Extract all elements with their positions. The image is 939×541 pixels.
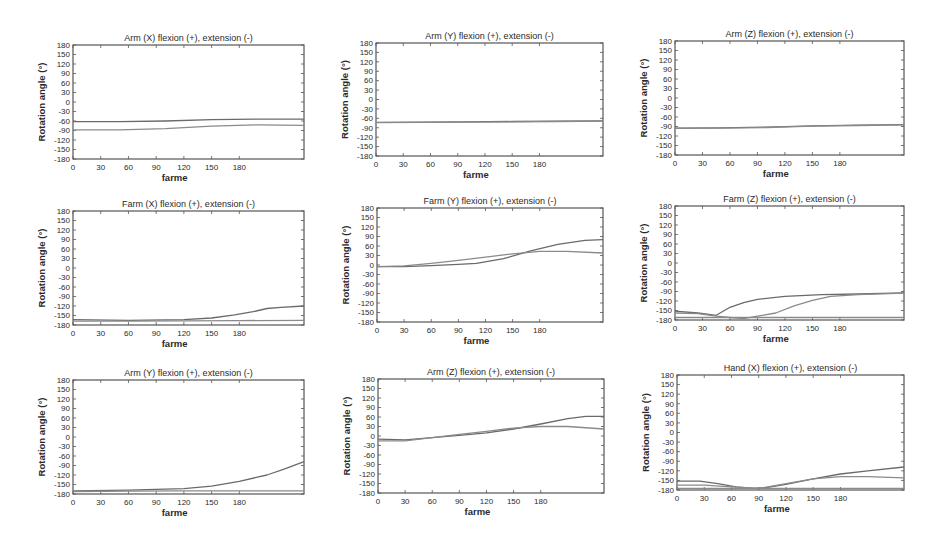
y-tick-label: -60 [662,447,674,456]
subplot-title: Arm (Y) flexion (+), extension (-) [124,368,252,378]
x-tick-label: 30 [96,163,105,172]
y-tick-label: 0 [369,95,374,104]
y-tick-label: 30 [663,249,672,258]
x-tick-label: 180 [833,324,847,333]
x-tick-label: 60 [124,498,133,507]
subplot-title: Arm (Z) flexion (+), extension (-) [427,367,555,377]
x-tick-label: 150 [506,160,520,169]
y-tick-label: -180 [54,155,71,164]
x-tick-label: 90 [753,159,762,168]
y-tick-label: -90 [662,457,674,466]
x-tick-label: 120 [779,494,793,503]
y-tick-label: 180 [361,204,375,213]
y-tick-label: -120 [54,136,71,145]
y-tick-label: 180 [659,37,673,46]
y-tick-label: 60 [366,413,375,422]
y-tick-label: 180 [659,202,673,211]
x-tick-label: 120 [478,160,492,169]
y-tick-label: -30 [361,105,373,114]
x-tick-label: 60 [726,324,735,333]
x-tick-label: 60 [727,494,736,503]
plot-area [73,45,304,159]
x-tick-label: 180 [233,163,247,172]
y-tick-label: 30 [61,88,70,97]
x-tick-label: 150 [205,498,219,507]
y-tick-label: -60 [660,278,672,287]
x-axis-label: farme [763,333,789,344]
y-tick-label: 120 [57,226,71,235]
x-tick-label: 120 [177,163,191,172]
x-tick-label: 30 [700,494,709,503]
y-axis-label: Rotation angle (°) [640,393,651,472]
x-tick-label: 0 [376,497,381,506]
y-tick-label: 90 [663,230,672,239]
subplot-title: Arm (Y) flexion (+), extension (-) [425,31,553,41]
y-tick-label: 30 [61,423,70,432]
y-axis-label: Rotation angle (°) [36,63,47,142]
y-tick-label: -150 [54,480,71,489]
y-tick-label: 90 [365,232,374,241]
x-tick-label: 0 [375,326,380,335]
y-tick-label: -120 [357,133,374,142]
x-tick-label: 90 [152,163,161,172]
x-tick-label: 0 [374,160,379,169]
y-tick-label: 90 [663,65,672,74]
y-tick-label: -180 [54,490,71,499]
y-tick-label: 120 [659,221,673,230]
x-tick-label: 0 [71,329,76,338]
y-tick-label: -120 [358,299,375,308]
y-tick-label: -90 [363,460,375,469]
y-tick-label: 30 [366,422,375,431]
y-tick-label: -90 [58,461,70,470]
y-tick-label: 150 [661,380,675,389]
subplot-title: Hand (X) flexion (+), extension (-) [724,363,857,373]
x-tick-label: 180 [834,494,848,503]
y-tick-label: 60 [61,245,70,254]
y-tick-label: -120 [656,297,673,306]
y-tick-label: -150 [658,476,675,485]
y-tick-label: -120 [656,132,673,141]
x-tick-label: 60 [426,160,435,169]
y-tick-label: 120 [362,394,376,403]
y-tick-label: 120 [360,58,374,67]
x-tick-label: 30 [698,324,707,333]
x-tick-label: 0 [673,159,678,168]
y-tick-label: 60 [665,409,674,418]
y-tick-label: -150 [357,142,374,151]
y-tick-label: -180 [359,489,376,498]
y-tick-label: 30 [663,84,672,93]
x-axis-label: farme [764,503,790,514]
y-tick-label: -90 [660,287,672,296]
x-axis-label: farme [162,172,188,183]
y-tick-label: 30 [665,419,674,428]
y-axis-label: Rotation angle (°) [36,229,47,308]
y-tick-label: 60 [663,75,672,84]
plot-area [675,41,904,155]
y-tick-label: 90 [61,69,70,78]
y-tick-label: 0 [668,94,673,103]
y-tick-label: -180 [656,316,673,325]
x-tick-label: 30 [698,159,707,168]
x-tick-label: 150 [205,163,219,172]
y-axis-label: Rotation angle (°) [638,59,649,138]
y-tick-label: 0 [66,264,71,273]
x-tick-label: 0 [71,163,76,172]
x-tick-label: 180 [534,497,548,506]
y-tick-label: 150 [659,46,673,55]
y-tick-label: 0 [66,98,71,107]
y-tick-label: 150 [57,385,71,394]
y-tick-label: 150 [361,213,375,222]
plot-area [376,43,603,156]
x-tick-label: 90 [754,494,763,503]
figure-canvas: Arm (X) flexion (+), extension (-)180150… [0,0,939,541]
x-tick-label: 90 [453,160,462,169]
y-tick-label: 180 [360,39,374,48]
y-tick-label: 120 [361,223,375,232]
y-tick-label: 60 [61,414,70,423]
x-axis-label: farme [463,169,489,180]
y-tick-label: 120 [57,60,71,69]
x-tick-label: 90 [455,497,464,506]
y-tick-label: -90 [58,292,70,301]
x-axis-label: farme [465,506,491,517]
x-tick-label: 0 [675,494,680,503]
